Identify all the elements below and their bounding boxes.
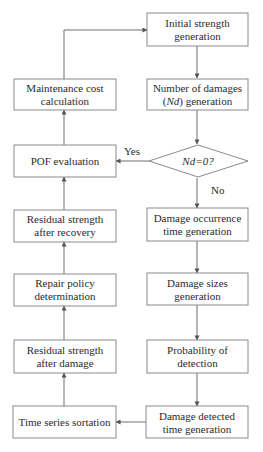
node-initial-strength: Initial strength generation <box>147 13 248 46</box>
node-label: generation <box>174 290 221 302</box>
node-number-of-damages: Number of damages (Nd) generation <box>147 79 248 110</box>
node-label: time generation <box>163 225 232 237</box>
node-time-series: Time series sortation <box>13 406 116 438</box>
node-maintenance-cost: Maintenance cost calculation <box>14 79 116 110</box>
edge-label-no: No <box>211 184 225 196</box>
node-label: Damage detected <box>159 410 236 422</box>
node-probability-detection: Probability of detection <box>147 340 248 373</box>
node-decision: Nd=0? <box>149 145 248 177</box>
node-label: Probability of <box>167 344 228 356</box>
node-label: after damage <box>36 357 93 369</box>
node-label: time generation <box>163 423 232 435</box>
flowchart-svg: Initial strength generation Number of da… <box>0 0 263 452</box>
node-damage-detected: Damage detected time generation <box>146 406 248 438</box>
edge-label-yes: Yes <box>124 145 140 157</box>
node-label: Time series sortation <box>19 416 111 428</box>
node-label: Initial strength <box>165 17 230 29</box>
node-damage-sizes: Damage sizes generation <box>147 273 248 305</box>
node-repair-policy: Repair policy determination <box>14 274 116 306</box>
node-label: determination <box>34 290 96 302</box>
node-label: (Nd) generation <box>163 95 233 108</box>
node-label: Number of damages <box>153 82 242 94</box>
node-residual-after-recovery: Residual strength after recovery <box>14 210 116 242</box>
node-label: Damage occurrence <box>154 212 242 224</box>
edge-maintenance-to-initial <box>64 30 147 79</box>
node-label: calculation <box>41 95 90 107</box>
node-label: Damage sizes <box>167 277 228 289</box>
node-label: Repair policy <box>35 277 95 289</box>
node-label: Residual strength <box>27 213 104 225</box>
flowchart: Initial strength generation Number of da… <box>0 0 263 452</box>
node-label: POF evaluation <box>31 155 100 167</box>
node-label: generation <box>174 30 221 42</box>
decision-label: Nd=0? <box>181 155 214 167</box>
node-residual-after-damage: Residual strength after damage <box>14 340 116 373</box>
node-damage-occurrence: Damage occurrence time generation <box>147 208 248 241</box>
node-label: detection <box>177 357 218 369</box>
node-label: Residual strength <box>27 344 104 356</box>
node-pof-evaluation: POF evaluation <box>14 145 116 177</box>
node-label: after recovery <box>34 226 96 238</box>
node-label: Maintenance cost <box>26 82 103 94</box>
